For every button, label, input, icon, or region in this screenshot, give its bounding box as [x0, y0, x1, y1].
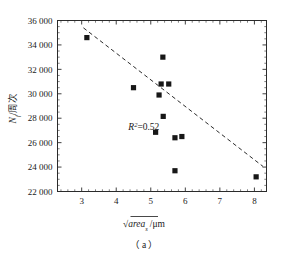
x-tick-label: 7 [218, 196, 223, 206]
data-point [172, 135, 177, 140]
data-point [161, 114, 166, 119]
data-point [179, 134, 184, 139]
y-tick-label: 34 000 [28, 40, 53, 50]
r-squared-annotation: R2=0.52 [127, 121, 159, 133]
data-point [172, 168, 177, 173]
data-point [254, 174, 259, 179]
data-point [84, 35, 89, 40]
x-tick-label: 3 [79, 196, 84, 206]
x-axis-tick-labels: 345678 [79, 196, 257, 206]
x-axis-ticks [61, 21, 261, 192]
y-tick-label: 28 000 [28, 113, 53, 123]
y-tick-label: 26 000 [28, 138, 53, 148]
data-point-series [84, 35, 258, 179]
y-axis-title-group: Nf/周次 [7, 93, 21, 125]
x-tick-label: 4 [114, 196, 119, 206]
axes-frame [58, 21, 267, 192]
y-tick-label: 32 000 [28, 65, 53, 75]
x-axis-title-group: √areas/μm [123, 217, 166, 232]
trendline-group [83, 28, 263, 167]
regression-trendline [83, 28, 263, 167]
y-tick-label: 36 000 [28, 16, 53, 26]
y-axis-tick-labels: 22 00024 00026 00028 00030 00032 00034 0… [28, 16, 53, 197]
data-point [166, 81, 171, 86]
scatter-chart: 22 00024 00026 00028 00030 00032 00034 0… [0, 0, 288, 257]
y-tick-label: 24 000 [28, 162, 53, 172]
x-tick-label: 8 [252, 196, 257, 206]
data-point [131, 85, 136, 90]
y-axis-ticks [58, 21, 267, 192]
y-tick-label: 22 000 [28, 187, 53, 197]
data-point [160, 55, 165, 60]
y-tick-label: 30 000 [28, 89, 53, 99]
x-axis-title: √areas/μm [123, 219, 166, 232]
y-axis-title: Nf/周次 [7, 93, 21, 125]
r-squared-symbol: R2=0.52 [127, 121, 159, 133]
x-tick-label: 6 [183, 196, 188, 206]
data-point [156, 92, 161, 97]
figure-container: 22 00024 00026 00028 00030 00032 00034 0… [0, 0, 288, 257]
x-tick-label: 5 [149, 196, 154, 206]
data-point [159, 81, 164, 86]
figure-caption: （ a ） [130, 239, 159, 250]
